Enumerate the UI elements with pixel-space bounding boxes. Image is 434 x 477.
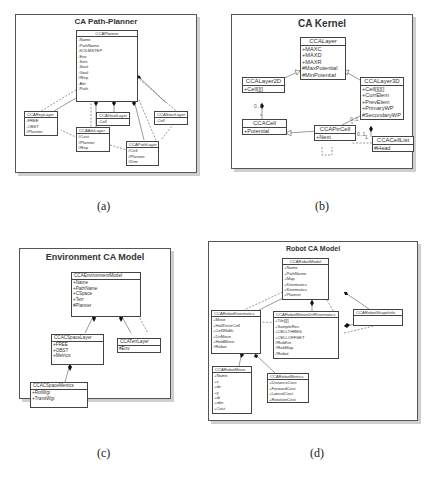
class-ccacelllist: CCACellList #Head [372,136,414,152]
class-ccaattrlayer: CCAAttrLayer #Cost #Planner #Rep [76,127,110,152]
class-ccalayer3d: CCALayer3D +Cell[][][] +CurrElem +PrevEl… [360,77,404,120]
class-ccalayer: CCALayer +MAXC +MAXD +MAXR #MaxPotential… [300,37,346,80]
class-ccaptrcell: CCAPtrCell +Next [314,125,356,141]
class-ccacspacelayer: CCACSpaceLayer +FREE +OBST +Metrics [51,334,104,365]
class-ccareplayer: CCARepLayer -FREE -OBST #Planner [24,111,58,136]
panel-c-environment-model: Environment CA Model CCAEnvironmentModel… [19,248,171,399]
caption-a: (a) [97,199,110,214]
class-ccagoallayer: CCAGoalLayer -Cell [96,112,130,126]
class-ccalayer2d: CCALayer2D +Cell[][] [242,77,285,93]
class-ccarobotmove: CCARobotMove +Name +x +dx +y +dr +rdin +… [212,366,252,414]
caption-c: (c) [97,446,110,461]
class-ccaplanner: CCAPlanner -Name -PathName -KOLMSTEP -En… [76,30,138,102]
class-ccastartlayer: CCAStartLayer -Cell [154,111,188,125]
caption-d: (d) [310,446,324,461]
class-ccapathlayer: CCAPathLayer #Cell #Planner #Dim [126,141,159,166]
panel-d-robot-model: Robot CA Model CCARobotModel +Name +Pa [208,241,418,421]
class-ccacspacemetrics: CCACSpaceMetrics +RotWgt +TransWgt [30,382,88,408]
panel-a-path-planner: CA Path-Planner CCAPlanner -Name [15,14,197,173]
panel-b-ca-kernel: CA Kernel 0..1 * 0..1 * 0..1 1 [231,14,413,169]
class-ccarobotmotiondiffkinematics: CCARobotMotionDiffKinematics +Tile[][] +… [273,311,339,359]
class-ccaterrlayer: CCATerrLayer #Env [117,338,161,353]
class-ccarobotkinematics: CCARobotKinematics +Move +HalfDriveCell … [211,310,261,354]
class-ccacell: CCACell +Potential [242,119,287,135]
class-ccaenvironmentmodel: CCAEnvironmentModel +Name +PathName +CSp… [71,272,141,317]
class-ccarobotshapeinfo: CCARobotShapeInfo [353,309,403,326]
svg-text:1: 1 [365,134,368,140]
svg-text:0..1: 0..1 [254,103,263,109]
caption-b: (b) [315,199,329,214]
class-ccarobotmetrics: CCARobotMetrics +DistanceCost +ForwardCo… [267,373,309,403]
class-ccarobotmodel: CCARobotModel +Name +PathName +Map +Kine… [282,258,329,300]
